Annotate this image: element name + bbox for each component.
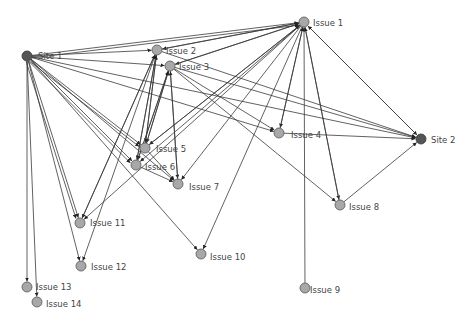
node-issue1[interactable] xyxy=(299,17,309,27)
node-label-issue11: Issue 11 xyxy=(90,218,126,228)
node-issue3[interactable] xyxy=(165,61,175,71)
edge-issue1-to-issue10 xyxy=(203,27,302,249)
edge-site1-to-issue11 xyxy=(29,61,79,218)
node-issue5[interactable] xyxy=(140,143,150,153)
node-label-issue12: Issue 12 xyxy=(91,262,127,272)
node-issue2[interactable] xyxy=(152,45,162,55)
edge-issue3-to-issue1 xyxy=(175,24,299,65)
node-issue13[interactable] xyxy=(22,282,32,292)
node-label-issue1: Issue 1 xyxy=(313,18,343,28)
node-issue7[interactable] xyxy=(173,179,183,189)
node-label-site1: Site 1 xyxy=(38,51,62,61)
node-issue6[interactable] xyxy=(131,160,141,170)
edge-site1-to-issue14 xyxy=(27,61,37,297)
node-label-issue8: Issue 8 xyxy=(349,202,379,212)
node-issue14[interactable] xyxy=(32,297,42,307)
node-label-issue4: Issue 4 xyxy=(291,130,321,140)
node-label-issue7: Issue 7 xyxy=(189,182,219,192)
node-label-issue9: Issue 9 xyxy=(310,285,340,295)
label-layer: Site 1Site 2Issue 1Issue 2Issue 3Issue 4… xyxy=(36,18,455,309)
node-site2[interactable] xyxy=(416,134,426,144)
edge-site1-to-issue5 xyxy=(31,59,141,145)
edge-issue9-to-issue1 xyxy=(304,27,305,283)
node-issue12[interactable] xyxy=(76,261,86,271)
node-site1[interactable] xyxy=(22,51,32,61)
edge-site1-to-issue4 xyxy=(32,57,274,131)
node-issue8[interactable] xyxy=(335,200,345,210)
node-issue10[interactable] xyxy=(196,249,206,259)
node-label-issue10: Issue 10 xyxy=(210,252,246,262)
edge-site1-to-issue11 xyxy=(26,62,76,219)
node-label-issue13: Issue 13 xyxy=(36,282,72,292)
node-label-issue6: Issue 6 xyxy=(145,162,175,172)
node-label-issue3: Issue 3 xyxy=(179,62,209,72)
edge-issue11-to-issue2 xyxy=(82,55,155,218)
node-issue11[interactable] xyxy=(75,218,85,228)
node-layer xyxy=(22,17,426,307)
node-issue4[interactable] xyxy=(274,128,284,138)
edge-issue8-to-site2 xyxy=(344,142,417,201)
edge-issue3-to-site2 xyxy=(175,67,416,137)
node-label-issue2: Issue 2 xyxy=(166,46,196,56)
edge-issue5-to-issue2 xyxy=(146,55,157,143)
node-label-issue14: Issue 14 xyxy=(46,299,82,309)
edge-issue1-to-issue7 xyxy=(181,26,301,180)
edge-issue1-to-issue6 xyxy=(140,25,300,161)
network-diagram: Site 1Site 2Issue 1Issue 2Issue 3Issue 4… xyxy=(0,0,474,327)
node-label-issue5: Issue 5 xyxy=(156,144,186,154)
node-issue9[interactable] xyxy=(300,283,310,293)
edge-issue3-to-issue4 xyxy=(174,69,274,131)
edge-site1-to-issue6 xyxy=(29,61,131,163)
node-label-site2: Site 2 xyxy=(431,135,455,145)
